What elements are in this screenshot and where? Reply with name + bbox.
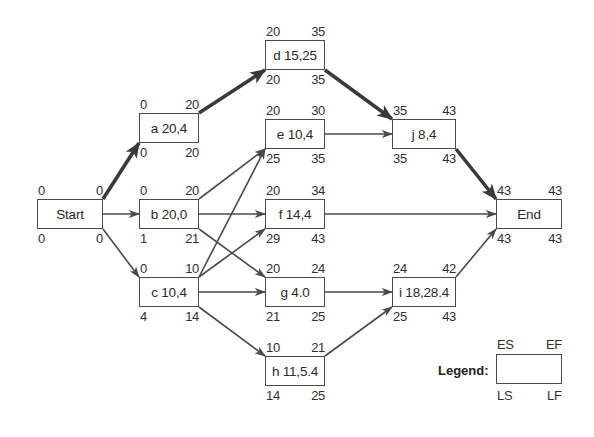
network-diagram: Start0000a 20,4020020b 20,0020121c 10,40…	[0, 0, 594, 437]
edge-c-to-h	[199, 307, 265, 356]
legend-ef: EF	[546, 338, 562, 351]
node-f-lf: 43	[307, 232, 325, 245]
legend-ls: LS	[497, 389, 512, 402]
node-f: f 14,4	[265, 199, 325, 229]
node-b: b 20,0	[139, 199, 199, 229]
legend-lf: LF	[547, 389, 562, 402]
node-d-lf: 35	[307, 73, 325, 86]
node-end-ls: 43	[497, 232, 511, 245]
node-h: h 11,5.4	[265, 356, 325, 386]
node-h-ef: 21	[307, 341, 325, 354]
node-c: c 10,4	[139, 277, 199, 307]
edge-start-to-c	[103, 229, 139, 277]
node-f-es: 20	[266, 184, 280, 197]
node-g-es: 20	[266, 262, 280, 275]
legend-es: ES	[497, 338, 514, 351]
node-g: g 4.0	[265, 277, 325, 307]
node-i-ls: 25	[393, 310, 407, 323]
node-a-lf: 20	[181, 146, 199, 159]
node-start-es: 0	[38, 184, 45, 197]
node-j-es: 35	[393, 104, 407, 117]
node-e-es: 20	[266, 104, 280, 117]
node-d-es: 20	[266, 25, 280, 38]
node-d: d 15,25	[265, 40, 325, 70]
node-g-ls: 21	[266, 310, 280, 323]
node-j-ls: 35	[393, 152, 407, 165]
node-a-es: 0	[140, 98, 147, 111]
node-d-ef: 35	[307, 25, 325, 38]
node-b-lf: 21	[181, 232, 199, 245]
edge-start-to-a-critical	[103, 143, 139, 199]
edge-b-to-e	[199, 149, 265, 199]
node-start: Start	[37, 199, 103, 229]
node-c-lf: 14	[181, 310, 199, 323]
node-a-ef: 20	[181, 98, 199, 111]
edge-h-to-i	[325, 307, 392, 356]
node-b-ls: 1	[140, 232, 147, 245]
node-end-ef: 43	[544, 184, 562, 197]
node-e-lf: 35	[307, 152, 325, 165]
node-b-es: 0	[140, 184, 147, 197]
node-e-ls: 25	[266, 152, 280, 165]
node-h-es: 10	[266, 341, 280, 354]
edge-d-to-j-critical	[325, 70, 392, 119]
node-a-ls: 0	[140, 146, 147, 159]
legend-title: Legend:	[438, 363, 489, 378]
edge-j-to-end-critical	[456, 149, 496, 199]
edge-a-to-d-critical	[199, 70, 265, 113]
node-start-ef: 0	[85, 184, 103, 197]
node-c-ls: 4	[140, 310, 147, 323]
node-d-ls: 20	[266, 73, 280, 86]
node-e-ef: 30	[307, 104, 325, 117]
node-j-ef: 43	[438, 104, 456, 117]
node-j: j 8,4	[392, 119, 456, 149]
node-g-ef: 24	[307, 262, 325, 275]
node-c-ef: 10	[181, 262, 199, 275]
node-a: a 20,4	[139, 113, 199, 143]
node-end-es: 43	[497, 184, 511, 197]
node-start-lf: 0	[85, 232, 103, 245]
edge-c-to-e	[199, 149, 265, 277]
node-g-lf: 25	[307, 310, 325, 323]
node-b-ef: 20	[181, 184, 199, 197]
node-f-ls: 29	[266, 232, 280, 245]
node-e: e 10,4	[265, 119, 325, 149]
node-end-lf: 43	[544, 232, 562, 245]
node-i-lf: 43	[438, 310, 456, 323]
node-f-ef: 34	[307, 184, 325, 197]
node-i-es: 24	[393, 262, 407, 275]
node-start-ls: 0	[38, 232, 45, 245]
node-h-ls: 14	[266, 389, 280, 402]
node-i: i 18,28.4	[392, 277, 456, 307]
legend-box	[496, 354, 562, 384]
node-c-es: 0	[140, 262, 147, 275]
node-j-lf: 43	[438, 152, 456, 165]
node-h-lf: 25	[307, 389, 325, 402]
edge-i-to-end	[456, 229, 496, 277]
node-i-ef: 42	[438, 262, 456, 275]
node-end: End	[496, 199, 562, 229]
